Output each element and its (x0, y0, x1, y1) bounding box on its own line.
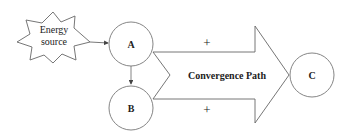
node-a: A (109, 22, 153, 66)
plus-bottom-label: + (203, 102, 210, 117)
energy-source-node: Energy source (17, 12, 90, 63)
node-b-label: B (128, 103, 135, 114)
convergence-path-label: Convergence Path (188, 70, 266, 81)
diagram-canvas: Energy source A B C + Convergence Path + (0, 0, 351, 137)
node-b: B (109, 86, 153, 130)
node-c-label: C (308, 70, 315, 81)
plus-top-label: + (203, 35, 210, 50)
energy-to-a-arrow (90, 42, 108, 43)
node-a-label: A (127, 39, 135, 50)
node-c: C (290, 53, 334, 97)
energy-label-line1: Energy (40, 24, 69, 35)
energy-label-line2: source (41, 36, 68, 47)
